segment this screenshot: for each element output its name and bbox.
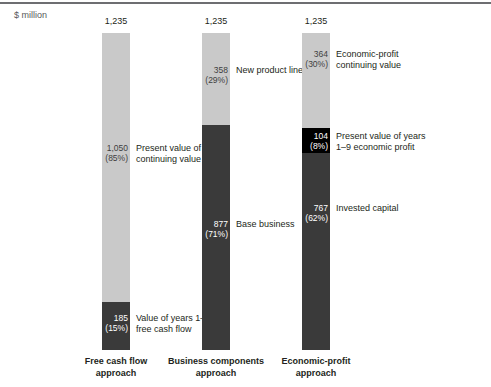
segment-value: 104 (8%) <box>298 131 328 151</box>
segment-value-number: 364 <box>298 49 328 59</box>
chart-container: $ million 1,235 1,050 (85%) Present valu… <box>0 0 491 387</box>
bar-total-label: 1,235 <box>66 16 166 27</box>
segment-value-number: 358 <box>198 65 228 75</box>
stacked-bar: 1,050 (85%) Present value of continuing … <box>102 33 130 350</box>
segment-value-percent: (62%) <box>298 213 328 223</box>
segment-value: 358 (29%) <box>198 65 228 85</box>
segment-value-number: 185 <box>98 313 128 323</box>
segment-value: 364 (30%) <box>298 49 328 69</box>
bar-total-label: 1,235 <box>266 16 366 27</box>
category-label-economic-profit: Economic-profit approach <box>241 356 391 379</box>
unit-caption: $ million <box>14 10 47 21</box>
segment-callout-label: Economic-profit continuing value <box>336 49 486 71</box>
segment-value-percent: (30%) <box>298 59 328 69</box>
stacked-bar: 364 (30%) Economic-profit continuing val… <box>302 33 330 350</box>
segment-value-percent: (29%) <box>198 75 228 85</box>
segment-value-percent: (71%) <box>198 229 228 239</box>
segment-callout-label: Invested capital <box>336 203 486 214</box>
segment-value: 185 (15%) <box>98 313 128 333</box>
bar-segment[interactable]: 358 (29%) New product line <box>202 33 230 125</box>
segment-value: 877 (71%) <box>198 219 228 239</box>
bar-segment[interactable]: 104 (8%) Present value of years 1–9 econ… <box>302 128 330 153</box>
stacked-bar: 358 (29%) New product line 877 (71%) Bas… <box>202 33 230 350</box>
bar-segment[interactable]: 1,050 (85%) Present value of continuing … <box>102 33 130 302</box>
bar-segment[interactable]: 364 (30%) Economic-profit continuing val… <box>302 33 330 128</box>
bar-segment[interactable]: 767 (62%) Invested capital <box>302 153 330 350</box>
segment-value-percent: (15%) <box>98 323 128 333</box>
segment-value-number: 1,050 <box>98 143 128 153</box>
segment-value: 1,050 (85%) <box>98 143 128 163</box>
segment-callout-label: Present value of years 1–9 economic prof… <box>336 131 486 153</box>
segment-value-number: 767 <box>298 203 328 213</box>
bar-total-label: 1,235 <box>166 16 266 27</box>
bar-segment[interactable]: 877 (71%) Base business <box>202 125 230 350</box>
segment-value: 767 (62%) <box>298 203 328 223</box>
segment-value-percent: (85%) <box>98 153 128 163</box>
segment-value-number: 877 <box>198 219 228 229</box>
bar-segment[interactable]: 185 (15%) Value of years 1–9 free cash f… <box>102 302 130 350</box>
segment-value-percent: (8%) <box>298 141 328 151</box>
header-divider <box>0 2 491 4</box>
segment-value-number: 104 <box>298 131 328 141</box>
